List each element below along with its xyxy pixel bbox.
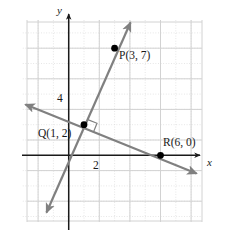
x-axis-tick-label-2: 2 — [93, 160, 99, 172]
x-axis-label: x — [207, 157, 212, 168]
y-axis-tick-label-4: 4 — [57, 93, 63, 105]
y-axis-label: y — [57, 5, 62, 16]
figure-canvas — [0, 0, 225, 244]
point-P-label: P(3, 7) — [119, 50, 150, 62]
point-R-label: R(6, 0) — [163, 137, 196, 149]
axes — [22, 14, 200, 230]
point-Q-label: Q(1, 2) — [38, 128, 71, 140]
point-P-dot — [111, 45, 118, 52]
point-Q-dot — [81, 121, 88, 128]
point-R-dot — [157, 152, 164, 159]
coordinate-plane-figure: P(3, 7) Q(1, 2) R(6, 0) 4 2 x y — [0, 0, 225, 244]
